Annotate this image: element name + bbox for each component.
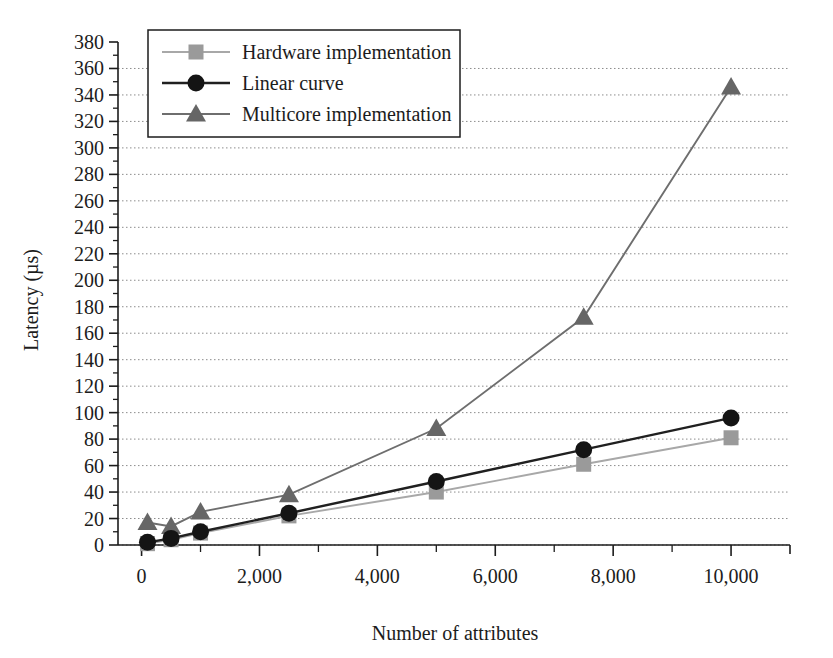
data-point-circle (163, 530, 180, 547)
y-axis-tick-label: 0 (94, 534, 104, 556)
data-point-circle (575, 441, 592, 458)
x-axis-tick-label: 8,000 (591, 565, 636, 587)
x-axis-tick-label: 6,000 (473, 565, 518, 587)
data-point-circle (139, 534, 156, 551)
y-axis-tick-label: 140 (74, 349, 104, 371)
x-axis-tick-label: 2,000 (237, 565, 282, 587)
latency-vs-attributes-line-chart: 0204060801001201401601802002202402602803… (0, 0, 833, 658)
y-axis-title: Latency (µs) (20, 249, 43, 351)
data-point-square (724, 430, 739, 445)
x-axis-tick-label: 10,000 (704, 565, 759, 587)
y-axis-tick-label: 120 (74, 375, 104, 397)
chart-legend: Hardware implementationLinear curveMulti… (148, 30, 460, 137)
y-axis-tick-label: 180 (74, 296, 104, 318)
y-axis-tick-label: 360 (74, 57, 104, 79)
y-axis-tick-label: 200 (74, 269, 104, 291)
y-axis-tick-label: 260 (74, 190, 104, 212)
data-point-circle (192, 523, 209, 540)
y-axis-tick-label: 20 (84, 508, 104, 530)
y-axis-tick-label: 60 (84, 455, 104, 477)
y-axis-tick-label: 160 (74, 322, 104, 344)
y-axis-tick-label: 220 (74, 243, 104, 265)
data-point-square (189, 45, 204, 60)
x-axis-title: Number of attributes (372, 622, 539, 644)
data-point-circle (188, 75, 205, 92)
x-axis-tick-label: 4,000 (355, 565, 400, 587)
legend-item-label: Hardware implementation (242, 41, 451, 64)
y-axis-tick-label: 280 (74, 163, 104, 185)
data-point-circle (723, 409, 740, 426)
data-point-square (576, 457, 591, 472)
y-axis-tick-label: 340 (74, 84, 104, 106)
y-axis-tick-label: 380 (74, 31, 104, 53)
legend-item-label: Linear curve (242, 72, 344, 94)
y-axis-tick-label: 80 (84, 428, 104, 450)
y-axis-tick-label: 320 (74, 110, 104, 132)
data-point-circle (428, 473, 445, 490)
x-axis-tick-label: 0 (137, 565, 147, 587)
y-axis-tick-label: 300 (74, 137, 104, 159)
legend-item-label: Multicore implementation (242, 103, 451, 126)
data-point-circle (280, 505, 297, 522)
y-axis-tick-label: 240 (74, 216, 104, 238)
chart-figure: 0204060801001201401601802002202402602803… (0, 0, 833, 658)
y-axis-tick-label: 40 (84, 481, 104, 503)
y-axis-tick-label: 100 (74, 402, 104, 424)
